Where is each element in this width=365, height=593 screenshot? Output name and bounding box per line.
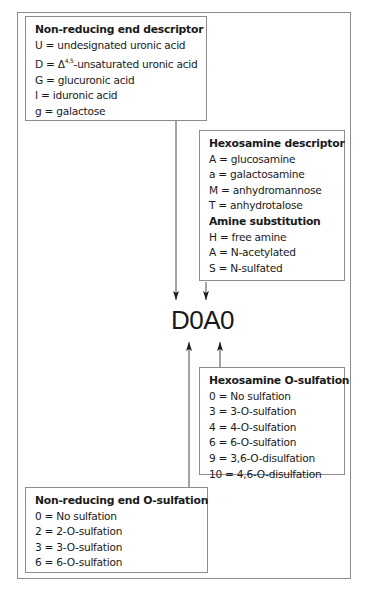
list-item: 3 = 3-O-sulfation <box>209 404 344 420</box>
list-item: A = glucosamine <box>209 152 344 168</box>
list-item: 4 = 4-O-sulfation <box>209 420 344 436</box>
list-item: 0 = No sulfation <box>209 389 344 405</box>
list-item: 0 = No sulfation <box>35 509 207 525</box>
list-item: U = undesignated uronic acid <box>35 38 206 54</box>
list-item: T = anhydrotalose <box>209 198 344 214</box>
list-item: 10 = 4,6-O-disulfation <box>209 467 344 483</box>
list-item: 9 = 3,6-O-disulfation <box>209 451 344 467</box>
box-title: Non-reducing end O-sulfation <box>35 493 207 509</box>
box-subtitle: Amine substitution <box>209 214 344 230</box>
list-item: S = N-sulfated <box>209 261 344 277</box>
hexosamine-descriptor-box: Hexosamine descriptor A = glucosamine a … <box>199 130 345 281</box>
box-title: Non-reducing end descriptor <box>35 22 206 38</box>
non-reducing-end-o-sulfation-box: Non-reducing end O-sulfation 0 = No sulf… <box>25 487 208 573</box>
list-item: 6 = 6-O-sulfation <box>209 435 344 451</box>
list-item: 6 = 6-O-sulfation <box>35 555 207 571</box>
list-item: H = free amine <box>209 230 344 246</box>
list-item: D = Δ4,5-unsaturated uronic acid <box>35 53 206 73</box>
hexosamine-o-sulfation-box: Hexosamine O-sulfation 0 = No sulfation … <box>199 367 345 475</box>
box-title: Hexosamine O-sulfation <box>209 373 344 389</box>
list-item: M = anhydromannose <box>209 183 344 199</box>
list-item: G = glucuronic acid <box>35 73 206 89</box>
box-title: Hexosamine descriptor <box>209 136 344 152</box>
list-item: I = iduronic acid <box>35 88 206 104</box>
list-item: 2 = 2-O-sulfation <box>35 524 207 540</box>
list-item: g = galactose <box>35 104 206 120</box>
non-reducing-end-descriptor-box: Non-reducing end descriptor U = undesign… <box>25 16 207 121</box>
list-item: A = N-acetylated <box>209 245 344 261</box>
list-item: a = galactosamine <box>209 167 344 183</box>
list-item: 3 = 3-O-sulfation <box>35 540 207 556</box>
structure-code-label: D0A0 <box>171 304 234 336</box>
